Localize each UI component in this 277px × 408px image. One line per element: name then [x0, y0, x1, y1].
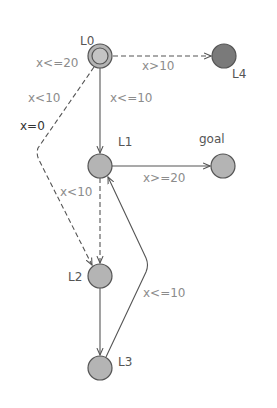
guard-l1-l2: x<10 — [60, 185, 92, 199]
edge-l3-l1[interactable] — [106, 177, 148, 357]
guard-l0-l2: x<10 — [28, 91, 60, 105]
location-label-l4: L4 — [232, 67, 246, 81]
invariant-l0: x<=20 — [36, 56, 78, 70]
location-label-l2: L2 — [68, 270, 82, 284]
guard-l0-l1: x<=10 — [110, 91, 152, 105]
location-label-l0: L0 — [80, 34, 94, 48]
assign-l0-l2: x=0 — [20, 119, 45, 133]
location-label-goal: goal — [199, 132, 225, 146]
location-l2[interactable] — [88, 264, 112, 288]
automaton-diagram: L0 L4 L1 goal L2 L3 x<=20 x>10 x<=10 x<1… — [0, 0, 277, 408]
location-goal[interactable] — [211, 154, 235, 178]
location-label-l1: L1 — [118, 135, 132, 149]
location-l1[interactable] — [88, 154, 112, 178]
location-l4[interactable] — [212, 44, 236, 68]
guard-l1-goal: x>=20 — [143, 171, 185, 185]
guard-l0-l4: x>10 — [142, 59, 174, 73]
location-l3[interactable] — [88, 356, 112, 380]
guard-l3-l1: x<=10 — [143, 286, 185, 300]
location-label-l3: L3 — [118, 355, 132, 369]
